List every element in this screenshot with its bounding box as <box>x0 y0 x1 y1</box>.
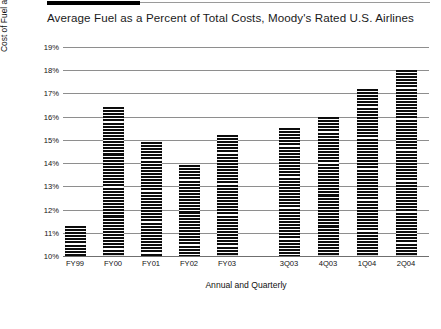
x-axis-tick-1Q04: 1Q04 <box>358 259 377 268</box>
y-axis-tick-10pct: 10% <box>44 252 59 261</box>
bar-series <box>63 47 429 256</box>
bar-FY00 <box>103 107 124 256</box>
header-rule-thick <box>47 1 140 5</box>
x-axis-tick-labels: FY99FY00FY01FY02FY033Q034Q031Q042Q04 <box>63 259 429 273</box>
x-axis-tick-2Q04: 2Q04 <box>397 259 416 268</box>
footer-artifacts <box>8 318 128 324</box>
y-axis-tick-19pct: 19% <box>44 43 59 52</box>
y-axis-tick-15pct: 15% <box>44 135 59 144</box>
y-axis-tick-18pct: 18% <box>44 66 59 75</box>
x-axis-tick-FY03: FY03 <box>218 259 236 268</box>
gridline-10pct: 10% <box>63 256 429 257</box>
bar-2Q04 <box>396 70 417 256</box>
y-axis-title: Cost of Fuel as % of Operating Costs <box>0 0 9 52</box>
x-axis-tick-3Q03: 3Q03 <box>280 259 299 268</box>
bar-FY01 <box>141 142 162 256</box>
y-axis-tick-16pct: 16% <box>44 112 59 121</box>
y-axis-tick-12pct: 12% <box>44 205 59 214</box>
y-axis-tick-14pct: 14% <box>44 159 59 168</box>
header-rule <box>0 0 441 7</box>
x-axis-tick-4Q03: 4Q03 <box>319 259 338 268</box>
bar-1Q04 <box>357 89 378 256</box>
bar-FY03 <box>217 135 238 256</box>
bar-3Q03 <box>279 128 300 256</box>
bar-FY02 <box>179 165 200 256</box>
x-axis-title: Annual and Quarterly <box>63 280 429 290</box>
x-axis-tick-FY99: FY99 <box>66 259 84 268</box>
y-axis-tick-17pct: 17% <box>44 89 59 98</box>
y-axis-tick-11pct: 11% <box>44 228 59 237</box>
bar-FY99 <box>65 226 86 256</box>
header-rule-thin <box>140 2 430 3</box>
y-axis-tick-13pct: 13% <box>44 182 59 191</box>
bar-4Q03 <box>318 117 339 256</box>
x-axis-tick-FY01: FY01 <box>142 259 160 268</box>
x-axis-tick-FY02: FY02 <box>180 259 198 268</box>
x-axis-tick-FY00: FY00 <box>104 259 122 268</box>
chart-title: Average Fuel as a Percent of Total Costs… <box>47 11 432 26</box>
